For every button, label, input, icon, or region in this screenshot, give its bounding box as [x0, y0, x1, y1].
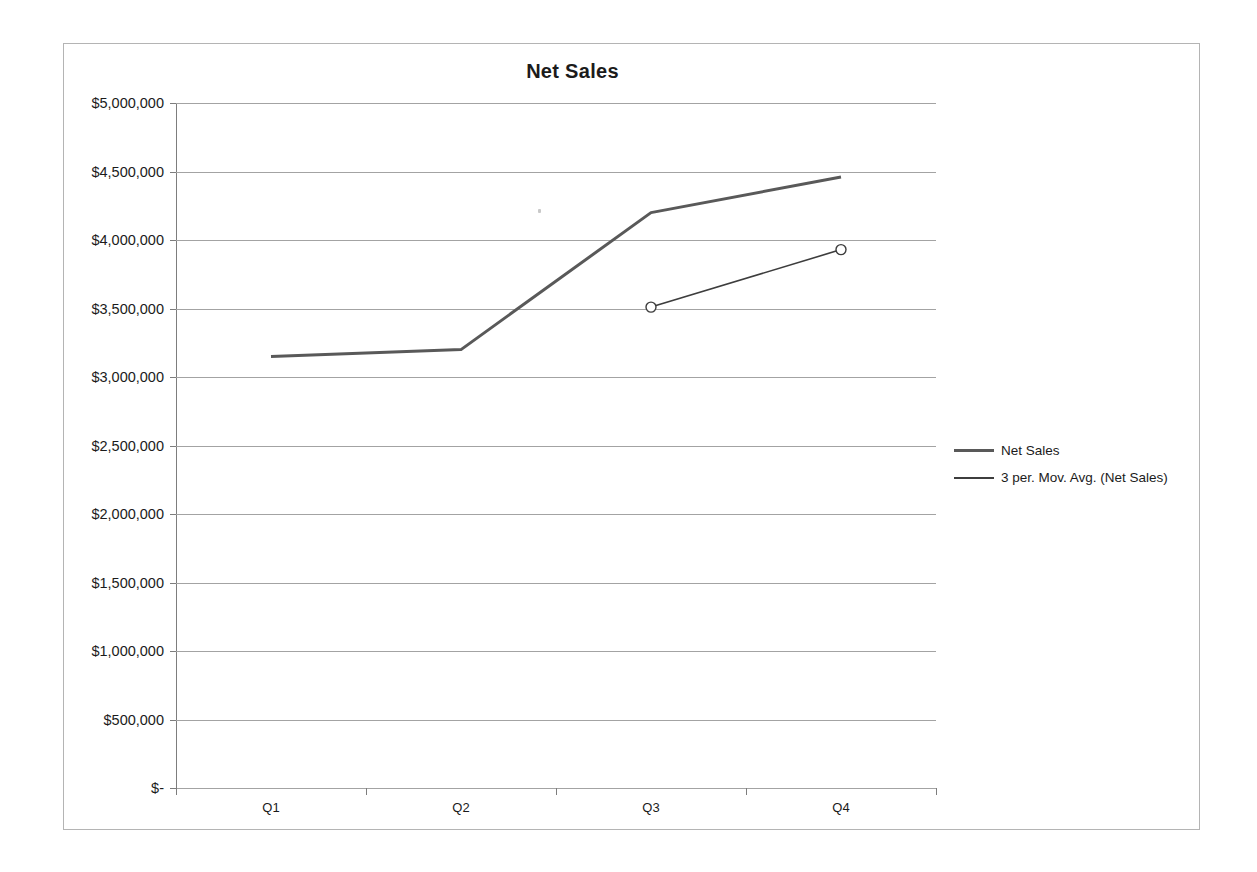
y-axis-label: $4,000,000 [91, 232, 164, 248]
y-axis-label: $5,000,000 [91, 95, 164, 111]
y-axis-label: $500,000 [104, 712, 164, 728]
legend-line-icon-moving-average [954, 477, 994, 479]
x-axis-tick [746, 788, 747, 795]
y-axis-label: $2,500,000 [91, 438, 164, 454]
scan-speck [538, 209, 541, 213]
legend-label-moving-average: 3 per. Mov. Avg. (Net Sales) [1001, 470, 1168, 485]
series-line [651, 250, 841, 308]
y-axis-label: $2,000,000 [91, 506, 164, 522]
chart-legend: Net Sales 3 per. Mov. Avg. (Net Sales) [954, 437, 1194, 491]
legend-label-net-sales: Net Sales [1001, 443, 1060, 458]
y-axis-label: $4,500,000 [91, 164, 164, 180]
series-line [271, 177, 841, 356]
chart-title-text: Net Sales [526, 60, 619, 82]
legend-line-icon-net-sales [954, 449, 994, 452]
series-lines [176, 103, 936, 788]
x-axis-tick [936, 788, 937, 795]
x-axis-label: Q1 [262, 800, 279, 815]
legend-item-moving-average[interactable]: 3 per. Mov. Avg. (Net Sales) [954, 464, 1194, 491]
y-axis-label: $- [151, 780, 164, 796]
y-axis-label: $1,500,000 [91, 575, 164, 591]
legend-item-net-sales[interactable]: Net Sales [954, 437, 1194, 464]
y-axis-label: $3,000,000 [91, 369, 164, 385]
x-axis-tick [176, 788, 177, 795]
y-axis-label: $3,500,000 [91, 301, 164, 317]
chart-title: Net Sales [64, 60, 1201, 83]
x-axis-label: Q4 [832, 800, 849, 815]
y-axis-label: $1,000,000 [91, 643, 164, 659]
series-marker [836, 245, 846, 255]
x-axis-label: Q2 [452, 800, 469, 815]
x-axis-label: Q3 [642, 800, 659, 815]
x-axis-tick [366, 788, 367, 795]
chart-frame: Net Sales $5,000,000$4,500,000$4,000,000… [63, 43, 1200, 830]
plot-area: $5,000,000$4,500,000$4,000,000$3,500,000… [176, 103, 936, 788]
x-axis-tick [556, 788, 557, 795]
series-marker [646, 302, 656, 312]
